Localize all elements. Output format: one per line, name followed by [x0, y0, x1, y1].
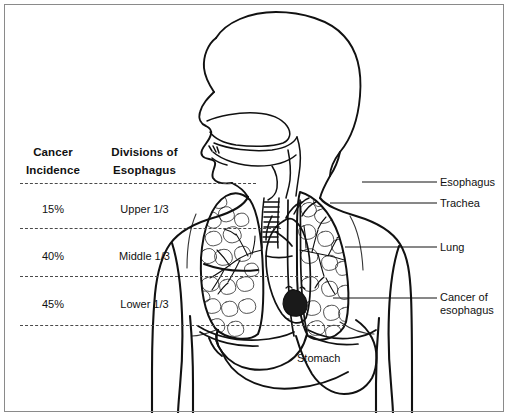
- esophageal-cancer-diagram: Cancer Incidence Divisions of Esophagus …: [0, 0, 510, 418]
- cell-division-middle: Middle 1/3: [92, 246, 197, 264]
- cell-incidence-upper: 15%: [14, 199, 92, 217]
- head-outline: [199, 12, 360, 198]
- table-row: 15% Upper 1/3: [14, 199, 199, 217]
- division-line-middle-lower: [20, 276, 318, 277]
- esophageal-tumor: [283, 287, 307, 320]
- cell-incidence-lower: 45%: [14, 294, 92, 312]
- incidence-value-lower: 45%: [42, 298, 64, 310]
- callout-leader-lines: [330, 182, 437, 298]
- cell-incidence-middle: 40%: [14, 246, 92, 264]
- division-line-upper-middle: [20, 228, 281, 229]
- callout-label-cancer-of-esophagus: Cancer of esophagus: [440, 291, 494, 316]
- left-lung: [201, 193, 263, 338]
- organ-label-stomach: Stomach: [297, 352, 340, 364]
- trachea: [262, 198, 279, 248]
- header-divisions-of-esophagus-text: Divisions of Esophagus: [111, 146, 177, 176]
- header-cancer-incidence: Cancer Incidence: [14, 142, 92, 178]
- callout-label-esophagus: Esophagus: [440, 176, 495, 189]
- incidence-table: Cancer Incidence Divisions of Esophagus: [14, 142, 199, 178]
- table-row: 40% Middle 1/3: [14, 246, 199, 264]
- incidence-value-upper: 15%: [42, 203, 64, 215]
- table-header-row: Cancer Incidence Divisions of Esophagus: [14, 142, 199, 178]
- division-label-lower: Lower 1/3: [120, 298, 168, 310]
- oropharynx-outline: [207, 113, 300, 200]
- cell-division-lower: Lower 1/3: [92, 294, 197, 312]
- incidence-value-middle: 40%: [42, 250, 64, 262]
- division-line-top: [20, 183, 256, 184]
- division-line-bottom: [20, 325, 345, 326]
- callout-label-trachea: Trachea: [440, 197, 480, 210]
- header-divisions-of-esophagus: Divisions of Esophagus: [92, 142, 197, 178]
- table-row: 45% Lower 1/3: [14, 294, 199, 312]
- callout-label-lung: Lung: [440, 241, 464, 254]
- header-cancer-incidence-text: Cancer Incidence: [26, 146, 80, 176]
- division-label-upper: Upper 1/3: [120, 203, 168, 215]
- division-label-middle: Middle 1/3: [119, 250, 170, 262]
- cell-division-upper: Upper 1/3: [92, 199, 197, 217]
